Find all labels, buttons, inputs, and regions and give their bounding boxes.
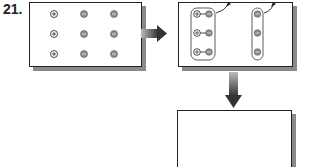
- diagram-graphics: [0, 0, 314, 167]
- arrow-right-icon: [141, 25, 167, 42]
- negative-ion-icon: [81, 11, 118, 58]
- escape-arrow-icon: [216, 5, 273, 13]
- arrow-down-icon: [225, 72, 242, 108]
